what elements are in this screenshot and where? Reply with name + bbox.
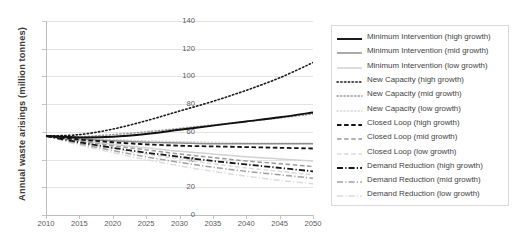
x-tick-mark (146, 215, 147, 219)
x-tick-mark (180, 215, 181, 219)
legend-line-swatch (336, 117, 363, 129)
legend-label: Demand Reduction (mid growth) (367, 174, 481, 186)
legend-label: Closed Loop (low growth) (367, 146, 456, 158)
legend-line-swatch (336, 131, 363, 143)
legend-line-swatch (336, 31, 363, 43)
legend-label: Closed Loop (high growth) (367, 117, 460, 129)
legend-label: New Capacity (high growth) (367, 74, 464, 86)
x-tick-mark (280, 215, 281, 219)
legend-label: Minimum Intervention (low growth) (367, 60, 488, 72)
legend-item[interactable]: Closed Loop (low growth) (336, 144, 505, 158)
legend-line-swatch (336, 174, 363, 186)
legend-item[interactable]: New Capacity (mid growth) (336, 87, 505, 101)
legend-line-swatch (336, 88, 363, 100)
x-tick-mark (79, 215, 80, 219)
x-tick-mark (313, 215, 314, 219)
legend-item[interactable]: Demand Reduction (high growth) (336, 159, 505, 173)
legend-item[interactable]: Demand Reduction (mid growth) (336, 173, 505, 187)
legend-label: Demand Reduction (low growth) (367, 188, 480, 200)
legend-label: New Capacity (low growth) (367, 103, 461, 115)
legend-item[interactable]: Closed Loop (high growth) (336, 116, 505, 130)
x-tick-mark (246, 215, 247, 219)
legend-line-swatch (336, 103, 363, 115)
legend-line-swatch (336, 74, 363, 86)
legend-item[interactable]: Closed Loop (mid growth) (336, 130, 505, 144)
chart-legend: Minimum Intervention (high growth)Minimu… (331, 25, 509, 206)
legend-line-swatch (336, 146, 363, 158)
legend-item[interactable]: New Capacity (high growth) (336, 73, 505, 87)
legend-item[interactable]: Minimum Intervention (low growth) (336, 59, 505, 73)
waste-arisings-line-chart: Annual waste arisings (million tonnes) 0… (0, 0, 513, 246)
legend-line-swatch (336, 45, 363, 57)
legend-item[interactable]: Minimum Intervention (mid growth) (336, 44, 505, 58)
legend-label: New Capacity (mid growth) (367, 88, 462, 100)
legend-line-swatch (336, 188, 363, 200)
series-line (46, 112, 313, 137)
legend-label: Minimum Intervention (high growth) (367, 31, 491, 43)
legend-line-swatch (336, 60, 363, 72)
x-tick-mark (213, 215, 214, 219)
x-tick-mark (46, 215, 47, 219)
x-tick-mark (113, 215, 114, 219)
y-axis-title: Annual waste arisings (million tonnes) (17, 9, 27, 219)
series-lines (46, 21, 313, 215)
series-line (46, 63, 313, 136)
legend-item[interactable]: Demand Reduction (low growth) (336, 187, 505, 201)
legend-label: Demand Reduction (high growth) (367, 160, 483, 172)
x-tick-label: 2050 (293, 219, 333, 228)
legend-line-swatch (336, 160, 363, 172)
legend-label: Minimum Intervention (mid growth) (367, 45, 488, 57)
legend-label: Closed Loop (mid growth) (367, 131, 457, 143)
legend-item[interactable]: Minimum Intervention (high growth) (336, 30, 505, 44)
legend-item[interactable]: New Capacity (low growth) (336, 101, 505, 115)
